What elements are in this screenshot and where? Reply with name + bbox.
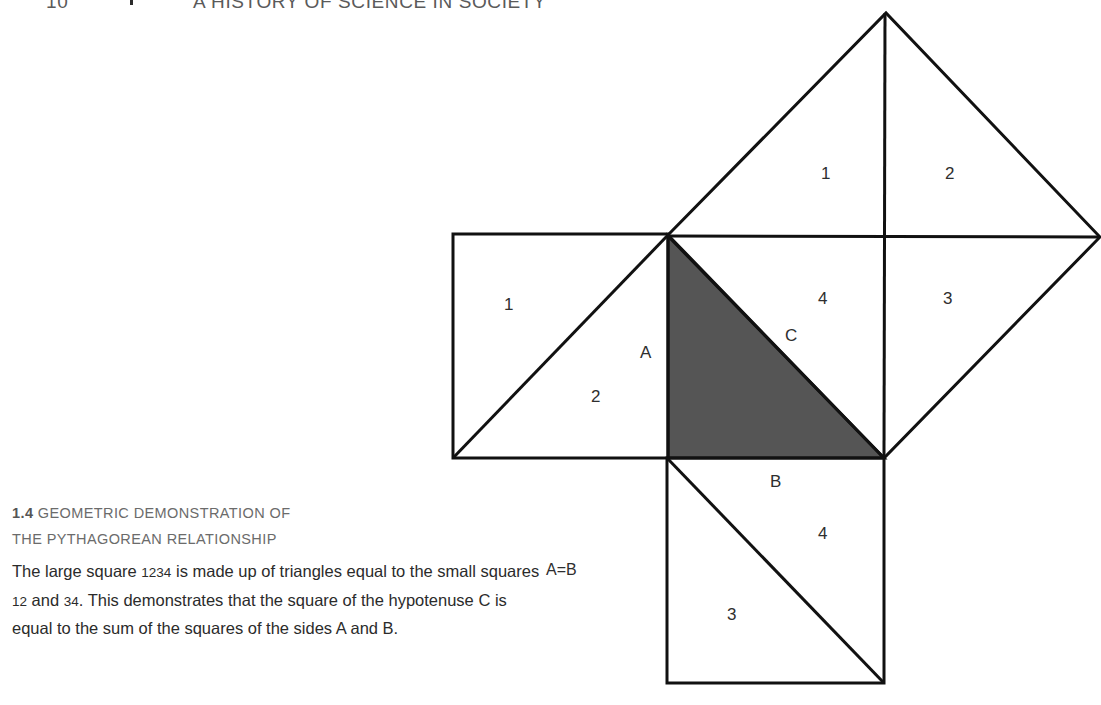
left-square-label-2: 2 [591, 387, 600, 406]
side-label-b: B [770, 472, 781, 491]
large-square-label-3: 3 [943, 289, 952, 308]
large-square-label-4: 4 [818, 289, 827, 308]
caption-title-line-1: GEOMETRIC DEMONSTRATION OF [38, 505, 291, 521]
caption-number-ref: 1234 [141, 565, 171, 580]
bottom-square-diagonal [667, 458, 884, 683]
caption-text: The large square [12, 562, 141, 580]
bottom-square-label-3: 3 [727, 605, 736, 624]
figure-caption: 1.4 GEOMETRIC DEMONSTRATION OF THE PYTHA… [12, 500, 572, 642]
caption-title-line-2: THE PYTHAGOREAN RELATIONSHIP [12, 531, 277, 547]
figure-number: 1.4 [12, 505, 33, 521]
caption-text: and [27, 591, 64, 609]
side-label-a: A [640, 343, 652, 362]
large-square-label-1: 1 [821, 164, 830, 183]
large-square-label-2: 2 [945, 164, 954, 183]
caption-text: . This demonstrates that the square of t… [12, 591, 507, 638]
bottom-square-label-4: 4 [818, 524, 827, 543]
left-square-label-1: 1 [504, 295, 513, 314]
left-square-diagonal [453, 235, 668, 458]
caption-body: The large square 1234 is made up of tria… [12, 558, 542, 642]
caption-text: is made up of triangles equal to the sma… [171, 562, 539, 580]
large-square-horizontal [668, 236, 1100, 237]
side-label-c: C [785, 326, 797, 345]
caption-number-ref: 12 [12, 594, 27, 609]
caption-title: 1.4 GEOMETRIC DEMONSTRATION OF THE PYTHA… [12, 500, 572, 552]
caption-number-ref: 34 [64, 594, 79, 609]
